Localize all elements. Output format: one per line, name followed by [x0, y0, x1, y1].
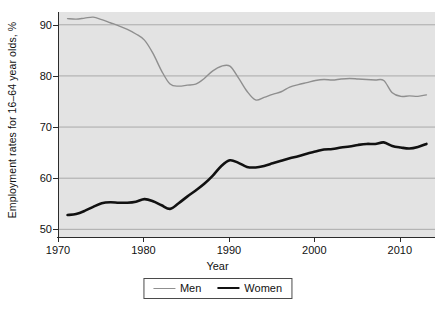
y-axis-tick-labels: 5060708090 — [24, 0, 56, 240]
legend-label: Men — [180, 282, 201, 294]
y-tick-label: 70 — [40, 121, 52, 133]
y-axis-label: Employment rates for 16–64 year olds, % — [0, 0, 24, 240]
x-tick-label: 1970 — [46, 244, 70, 256]
legend-label: Women — [244, 282, 282, 294]
y-tick-label: 90 — [40, 19, 52, 31]
x-tick-mark — [143, 238, 144, 242]
x-axis-line — [57, 237, 435, 238]
plot-svg — [59, 12, 435, 237]
legend-entry-women: Women — [217, 282, 282, 294]
x-tick-label: 1990 — [217, 244, 241, 256]
y-tick-label: 50 — [40, 223, 52, 235]
legend-line-icon — [153, 288, 175, 289]
x-tick-label: 2010 — [388, 244, 412, 256]
y-tick-mark — [53, 127, 58, 128]
legend-entry-men: Men — [153, 282, 201, 294]
x-tick-label: 2000 — [302, 244, 326, 256]
series-line-women — [68, 142, 427, 215]
legend-line-icon — [217, 287, 239, 289]
y-tick-mark — [53, 178, 58, 179]
chart-legend: MenWomen — [143, 278, 292, 299]
plot-area — [58, 12, 435, 237]
y-tick-mark — [53, 25, 58, 26]
x-tick-mark — [400, 238, 401, 242]
y-axis-label-text: Employment rates for 16–64 year olds, % — [6, 22, 18, 219]
x-tick-mark — [314, 238, 315, 242]
series-lines — [68, 17, 427, 215]
y-tick-mark — [53, 76, 58, 77]
employment-rates-chart: Employment rates for 16–64 year olds, % … — [0, 0, 435, 313]
series-line-men — [68, 17, 427, 100]
y-tick-mark — [53, 229, 58, 230]
x-tick-mark — [229, 238, 230, 242]
y-tick-label: 80 — [40, 70, 52, 82]
x-tick-label: 1980 — [131, 244, 155, 256]
gridlines — [59, 25, 435, 230]
x-axis-label: Year — [0, 260, 435, 272]
x-tick-mark — [58, 238, 59, 242]
y-tick-label: 60 — [40, 172, 52, 184]
